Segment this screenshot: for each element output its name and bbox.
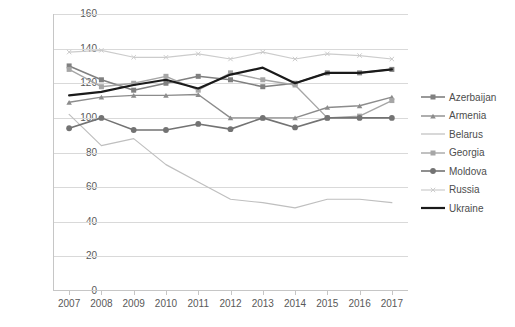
x-tick <box>198 291 199 295</box>
x-tick <box>360 291 361 295</box>
legend-key-icon <box>420 147 446 159</box>
legend-key-icon <box>420 165 446 177</box>
x-tick <box>231 291 232 295</box>
x-tick <box>69 291 70 295</box>
legend-key-icon <box>420 128 446 140</box>
legend-item-russia[interactable]: Russia <box>420 181 515 200</box>
legend-item-label: Ukraine <box>446 203 483 214</box>
legend-item-label: Belarus <box>446 129 483 140</box>
legend-item-ukraine[interactable]: Ukraine <box>420 199 515 218</box>
legend-key-icon <box>420 110 446 122</box>
legend-key-icon <box>420 91 446 103</box>
x-tick <box>166 291 167 295</box>
legend-item-label: Moldova <box>446 166 487 177</box>
plot-area <box>53 14 408 291</box>
legend-item-georgia[interactable]: Georgia <box>420 144 515 163</box>
series-lines <box>53 14 408 291</box>
legend-item-belarus[interactable]: Belarus <box>420 125 515 144</box>
legend-item-moldova[interactable]: Moldova <box>420 162 515 181</box>
x-tick <box>263 291 264 295</box>
chart-legend: AzerbaijanArmeniaBelarusGeorgiaMoldovaRu… <box>420 88 515 218</box>
legend-item-armenia[interactable]: Armenia <box>420 107 515 126</box>
series-russia <box>67 48 394 61</box>
legend-item-label: Georgia <box>446 147 485 158</box>
x-tick <box>101 291 102 295</box>
legend-item-label: Armenia <box>446 110 486 121</box>
legend-item-azerbaijan[interactable]: Azerbaijan <box>420 88 515 107</box>
legend-item-label: Russia <box>446 184 480 195</box>
series-armenia <box>66 92 394 120</box>
x-tick <box>134 291 135 295</box>
x-tick <box>392 291 393 295</box>
legend-key-icon <box>420 184 446 196</box>
legend-key-icon <box>420 202 446 214</box>
x-tick-label: 2017 <box>372 299 412 309</box>
legend-item-label: Azerbaijan <box>446 92 496 103</box>
figure-caption <box>8 318 308 327</box>
x-tick <box>327 291 328 295</box>
x-tick <box>295 291 296 295</box>
line-chart: 020406080100120140160 200720082009201020… <box>0 0 515 327</box>
